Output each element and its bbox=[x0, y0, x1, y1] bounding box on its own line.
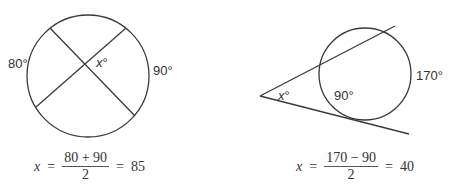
numerator: 80 + 90 bbox=[62, 151, 109, 167]
equation-variable: x bbox=[34, 159, 40, 175]
chords-diagram: 80° x° 90° bbox=[8, 15, 173, 137]
chord-2 bbox=[36, 28, 126, 107]
arc-label-170: 170° bbox=[416, 68, 443, 83]
equation-chords: x = 80 + 90 2 = 85 bbox=[34, 151, 145, 182]
equals-sign: = bbox=[385, 159, 393, 175]
denominator: 2 bbox=[348, 167, 355, 182]
equals-sign: = bbox=[116, 159, 124, 175]
angle-label-x: x° bbox=[277, 88, 290, 103]
fraction: 170 − 90 2 bbox=[324, 151, 378, 182]
chord-1 bbox=[50, 28, 135, 116]
secant-line bbox=[260, 26, 395, 96]
left-circle bbox=[27, 15, 149, 137]
numerator: 170 − 90 bbox=[324, 151, 378, 167]
fraction: 80 + 90 2 bbox=[62, 151, 109, 182]
angle-label-x: x° bbox=[95, 55, 108, 70]
secant-tangent-diagram: x° 90° 170° bbox=[260, 26, 443, 134]
result: 40 bbox=[400, 159, 414, 175]
equation-variable: x bbox=[296, 159, 302, 175]
equals-sign: = bbox=[47, 159, 55, 175]
arc-label-90: 90° bbox=[334, 88, 354, 103]
denominator: 2 bbox=[82, 167, 89, 182]
equation-secant-tangent: x = 170 − 90 2 = 40 bbox=[296, 151, 414, 182]
result: 85 bbox=[131, 159, 145, 175]
equals-sign: = bbox=[309, 159, 317, 175]
arc-label-90: 90° bbox=[153, 63, 173, 78]
arc-label-80: 80° bbox=[8, 56, 28, 71]
